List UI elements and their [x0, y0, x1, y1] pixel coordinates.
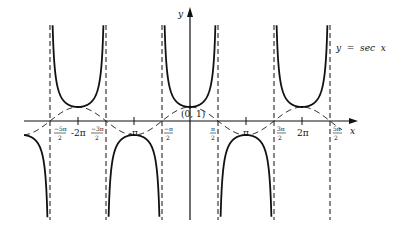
svg-text:5π: 5π: [333, 125, 341, 132]
tick-label-5pi-2: 5π 2: [333, 125, 342, 141]
svg-text:2: 2: [211, 134, 215, 141]
tick-label-neg-pi-2: −π 2: [164, 125, 173, 141]
legend-label: y = sec x: [335, 43, 386, 53]
tick-label-pi: π: [243, 128, 249, 138]
tick-label-neg-pi: -π: [129, 128, 138, 138]
secant-chart: y x y = sec x (0, 1) -2π -π π 2π −5π 2 −…: [0, 0, 403, 233]
tick-label-3pi-2: 3π 2: [277, 125, 286, 141]
svg-text:2: 2: [334, 134, 338, 141]
svg-text:2: 2: [278, 134, 282, 141]
tick-label-2pi: 2π: [297, 128, 309, 138]
svg-text:−3π: −3π: [91, 125, 104, 132]
svg-text:3π: 3π: [277, 125, 285, 132]
y-axis-label: y: [177, 9, 184, 19]
secant-branch-partial: [24, 135, 47, 217]
plot-curves: [24, 25, 342, 220]
svg-text:2: 2: [58, 134, 62, 141]
tick-label-neg-3pi-2: −3π 2: [91, 125, 104, 141]
point-marker: [188, 105, 191, 108]
secant-branch: [277, 25, 328, 107]
svg-text:2: 2: [95, 134, 99, 141]
svg-text:−5π: −5π: [54, 125, 67, 132]
y-axis-arrow-icon: [187, 7, 193, 17]
point-annotation: (0, 1): [181, 109, 205, 119]
secant-branch: [53, 25, 104, 107]
svg-text:2: 2: [166, 134, 170, 141]
x-axis-arrow-icon: [349, 118, 358, 124]
tick-label-pi-2: π 2: [210, 125, 216, 141]
tick-label-neg-2pi: -2π: [71, 128, 86, 138]
tick-label-neg-5pi-2: −5π 2: [54, 125, 67, 141]
x-axis-label: x: [350, 126, 355, 136]
secant-branch: [221, 135, 272, 217]
svg-text:π: π: [211, 125, 215, 132]
svg-text:−π: −π: [164, 125, 173, 132]
secant-branch: [109, 135, 160, 217]
